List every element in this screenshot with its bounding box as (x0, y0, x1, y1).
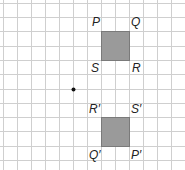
label-p-prime: P′ (131, 149, 141, 161)
label-r: R (132, 62, 141, 74)
label-q: Q (131, 16, 140, 28)
label-s-prime: S′ (131, 103, 141, 115)
center-of-rotation-dot (72, 88, 76, 92)
label-s: S (91, 62, 99, 74)
image-square-prime (102, 118, 130, 147)
label-r-prime: R′ (89, 103, 100, 115)
label-q-prime: Q′ (89, 149, 101, 161)
label-p: P (92, 16, 100, 28)
original-square-pqrs (102, 32, 130, 61)
grid-diagram: P Q S R R′ S′ Q′ P′ (0, 0, 185, 170)
